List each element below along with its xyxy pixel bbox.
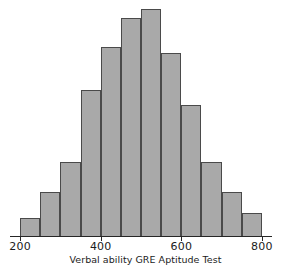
- histogram-bar: [222, 192, 242, 237]
- histogram-bar: [81, 90, 101, 237]
- x-axis-tick-label: 200: [0, 240, 40, 253]
- histogram-bar: [141, 9, 161, 237]
- histogram-bar: [121, 18, 141, 237]
- histogram-bar: [40, 192, 60, 237]
- x-axis-title: Verbal ability GRE Aptitude Test: [0, 254, 291, 266]
- histogram-bar: [242, 213, 262, 237]
- x-axis-tick-label: 800: [242, 240, 282, 253]
- x-axis-tick-label: 400: [81, 240, 121, 253]
- histogram-bar: [60, 162, 80, 237]
- histogram-bar: [181, 105, 201, 237]
- plot-area: [0, 0, 291, 237]
- histogram-bar: [201, 162, 221, 237]
- histogram-figure: 200400600800 Verbal ability GRE Aptitude…: [0, 0, 291, 269]
- x-axis-tick-label: 600: [161, 240, 201, 253]
- histogram-bar: [101, 47, 121, 237]
- histogram-bar: [20, 218, 40, 237]
- x-axis-line: [10, 236, 272, 237]
- histogram-bar: [161, 53, 181, 237]
